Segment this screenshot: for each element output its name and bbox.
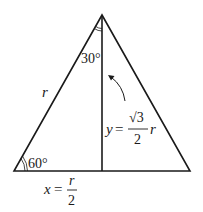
hypotenuse-label: r [42, 84, 48, 100]
height-var: y [104, 121, 113, 137]
height-r: r [150, 121, 156, 137]
base-numerator: r [69, 173, 75, 188]
top-angle-label: 30° [81, 51, 101, 66]
base-eq: = [54, 181, 62, 197]
height-numerator: √3 [129, 110, 144, 125]
base-denominator: 2 [68, 193, 75, 208]
height-denominator: 2 [134, 132, 141, 147]
height-eq: = [115, 121, 123, 137]
triangle-diagram: 30° 60° r y = √3 2 r x = r 2 [0, 0, 203, 212]
bottom-angle-label: 60° [28, 156, 48, 171]
base-var: x [43, 181, 51, 197]
curved-arrow-icon [108, 75, 125, 101]
